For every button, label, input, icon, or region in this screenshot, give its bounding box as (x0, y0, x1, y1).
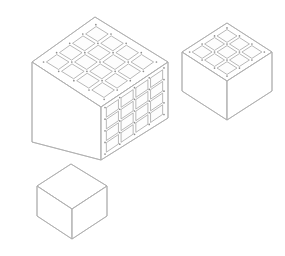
large-cube-right-lattice-dot (119, 120, 121, 122)
large-cube-right-lattice-dot (104, 142, 106, 144)
large-cube-top-lattice-dot (156, 61, 158, 63)
large-cube-right-lattice-dot (148, 89, 150, 91)
medium-cube-top-lattice-dot (226, 75, 228, 77)
large-cube-right-lattice-dot (148, 112, 150, 114)
large-cube-right-lattice-dot (119, 132, 121, 134)
large-cube-top-lattice-dot (88, 89, 90, 91)
large-cube-top-lattice-dot (125, 42, 127, 44)
large-cube-right-lattice-dot (104, 130, 106, 132)
large-cube-top-lattice-dot (127, 61, 129, 63)
medium-cube-top-lattice-dot (251, 59, 253, 61)
large-cube-right-lattice-dot (104, 107, 106, 109)
medium-cube-top-lattice-dot (239, 35, 241, 37)
large-cube-right-lattice-dot (134, 133, 136, 135)
large-cube-right-lattice-dot (163, 90, 165, 92)
medium-cube-top-lattice-dot (251, 43, 253, 45)
large-cube-top-lattice-dot (99, 61, 101, 63)
large-cube-right-lattice-dot (163, 102, 165, 104)
large-cube-top-lattice-dot (140, 52, 142, 54)
large-cube-right-lattice-dot (104, 118, 106, 120)
large-cube-top-lattice-dot (56, 52, 58, 54)
medium-cube-top-lattice-dot (201, 59, 203, 61)
large-cube-right-lattice-dot (148, 124, 150, 126)
large-cube-right-lattice-dot (163, 79, 165, 81)
large-cube-top-lattice-dot (116, 89, 118, 91)
large-cube-top-lattice-dot (112, 52, 114, 54)
large-cube-top-lattice-dot (84, 52, 86, 54)
medium-cube-top-lattice-dot (264, 51, 266, 53)
medium-cube-top-lattice-dot (214, 35, 216, 37)
large-cube-top-lattice-dot (69, 42, 71, 44)
medium-cube-top-lattice-dot (239, 51, 241, 53)
large-cube-top-lattice-dot (58, 70, 60, 72)
large-cube-top-lattice-dot (114, 70, 116, 72)
large-cube-right-lattice-dot (163, 67, 165, 69)
medium-cube-top-lattice-dot (189, 51, 191, 53)
large-cube-right-lattice-dot (134, 98, 136, 100)
large-cube-top-lattice-dot (86, 70, 88, 72)
large-cube-top-lattice-dot (82, 33, 84, 35)
large-cube-right-lattice-dot (119, 108, 121, 110)
large-cube-top-lattice-dot (73, 80, 75, 82)
medium-cube (182, 23, 272, 120)
large-cube-right-lattice-dot (119, 97, 121, 99)
large-cube-right-lattice-dot (134, 87, 136, 89)
large-cube-top-lattice-dot (101, 80, 103, 82)
small-cube (37, 164, 107, 239)
medium-cube-top-lattice-dot (226, 59, 228, 61)
large-cube-right-lattice-dot (148, 77, 150, 79)
large-cube-top-lattice-dot (97, 42, 99, 44)
large-cube-right-lattice-dot (119, 143, 121, 145)
medium-cube-top-lattice-dot (226, 27, 228, 29)
large-cube-top-lattice-dot (129, 80, 131, 82)
medium-cube-top-lattice-dot (239, 67, 241, 69)
large-cube (32, 17, 168, 160)
large-cube-top-lattice-dot (110, 33, 112, 35)
large-cube-top-lattice-dot (103, 99, 105, 101)
large-cube-right-lattice-dot (148, 100, 150, 102)
diagram-canvas (0, 0, 285, 256)
medium-cube-top-lattice-dot (214, 67, 216, 69)
large-cube-right-lattice-dot (104, 153, 106, 155)
large-cube-top-lattice-dot (71, 61, 73, 63)
large-cube-right-lattice-dot (163, 114, 165, 116)
isometric-cubes-illustration (0, 0, 285, 256)
large-cube-top-lattice-dot (95, 24, 97, 26)
medium-cube-top-lattice-dot (214, 51, 216, 53)
medium-cube-top-lattice-dot (226, 43, 228, 45)
large-cube-right-lattice-dot (134, 122, 136, 124)
large-cube-top-lattice-dot (43, 61, 45, 63)
large-cube-top-lattice-dot (143, 70, 145, 72)
medium-cube-top-lattice-dot (201, 43, 203, 45)
large-cube-right-lattice-dot (134, 110, 136, 112)
